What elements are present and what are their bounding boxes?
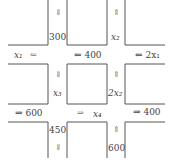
lower-right-flow-label: ⇒ 400 [133,107,161,117]
upper-left-arrow-icon: ⇐ [30,50,37,60]
upper-right-flow-label: ⇐ 2x₁ [135,50,160,60]
road-network-lines [0,0,173,167]
top-right-flow-label: x₂ [111,32,120,42]
mid-right-var-label: 2x₂ [108,88,122,98]
mid-left-down-arrow-icon: ⇓ [55,70,62,80]
top-left-flow-label: 300 [49,32,66,42]
bottom-left-down-arrow-icon: ⇓ [55,143,62,153]
bottom-right-up-arrow-icon: ⇑ [113,125,120,135]
bottom-left-flow-label: 450 [49,125,66,135]
upper-mid-flow-label: ⇐ 400 [74,50,102,60]
lower-mid-var-label: x₄ [93,109,102,119]
lower-left-flow-label: ⇒ 600 [15,108,43,118]
top-right-up-arrow-icon: ⇑ [113,8,120,18]
lower-mid-arrow-icon: ⇒ [77,108,84,118]
mid-right-up-arrow-icon: ⇑ [113,70,120,80]
bottom-right-flow-label: 600 [108,143,125,153]
top-left-down-arrow-icon: ⇓ [55,8,62,18]
upper-left-var-label: x₁ [14,50,23,60]
mid-left-var-label: x₃ [53,88,62,98]
